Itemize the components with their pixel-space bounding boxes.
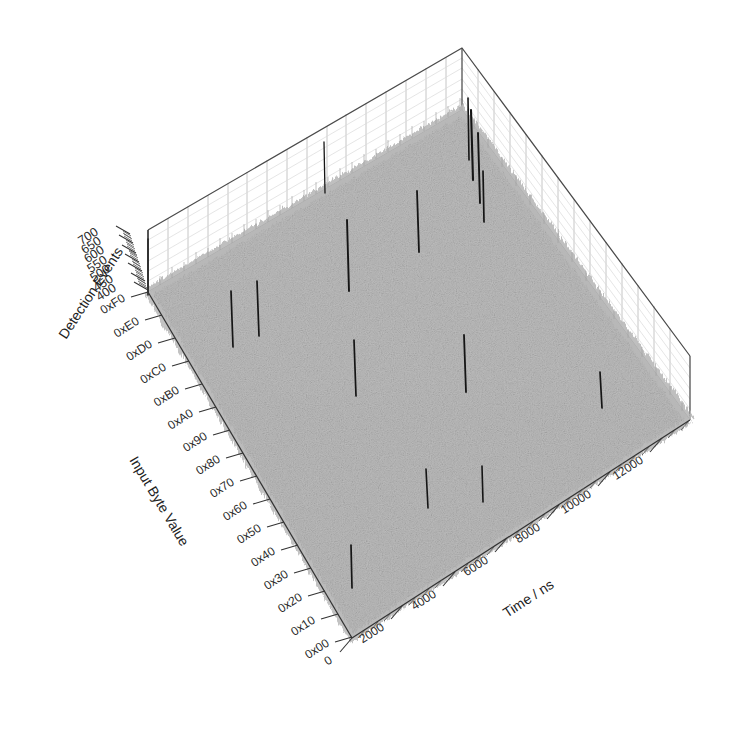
y-tick-label: 0x50 bbox=[234, 521, 264, 547]
y-tick-label: 0xE0 bbox=[111, 314, 142, 341]
y-tick-label: 0x30 bbox=[261, 567, 291, 593]
spike bbox=[483, 171, 484, 222]
noise-surface bbox=[148, 98, 690, 638]
x-tick-label: 0 bbox=[321, 653, 334, 669]
y-tick-label: 0xD0 bbox=[124, 337, 155, 364]
spike bbox=[468, 98, 469, 160]
spike bbox=[351, 545, 352, 588]
y-tick-label: 0xB0 bbox=[151, 383, 182, 410]
y-axis-title: Input Byte Value bbox=[126, 453, 192, 549]
y-tick-label: 0x10 bbox=[288, 613, 318, 639]
y-tick-label: 0x40 bbox=[248, 544, 278, 570]
spike bbox=[482, 466, 483, 502]
y-tick-label: 0xC0 bbox=[138, 360, 169, 387]
y-tick-label: 0x20 bbox=[275, 590, 305, 616]
x-axis-title: Time / ns bbox=[500, 576, 557, 620]
surface-plot-figure: 400 450 500 550 600 650 700 Detection Ev… bbox=[0, 0, 753, 745]
y-tick-label: 0xA0 bbox=[165, 406, 196, 433]
y-tick-label: 0x60 bbox=[220, 498, 250, 524]
y-tick-label: 0x90 bbox=[180, 429, 210, 455]
y-tick-label: 0x70 bbox=[207, 475, 237, 501]
y-tick-label: 0x80 bbox=[193, 452, 223, 478]
